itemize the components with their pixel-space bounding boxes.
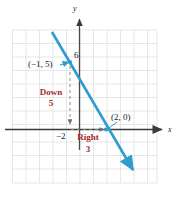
point-leader-a (60, 62, 69, 65)
graph-figure: y x 6 −2 (−1, 5) (2, 0) Down 5 Right 3 (0, 0, 178, 199)
coordinate-plane (0, 0, 178, 199)
annotation-down-value: 5 (34, 99, 68, 108)
annotation-right-value: 3 (70, 145, 106, 154)
point-leader-b (109, 122, 117, 128)
point-marker-b (104, 127, 108, 131)
x-tick-label-neg2: −2 (56, 132, 66, 141)
annotation-right-label: Right (70, 133, 106, 142)
point-label-2-0: (2, 0) (111, 113, 131, 122)
y-axis-label: y (73, 5, 77, 13)
y-tick-label-6: 6 (74, 51, 79, 60)
annotation-down-label: Down (34, 88, 68, 97)
x-axis-label: x (168, 126, 172, 134)
point-label-neg1-5: (−1, 5) (28, 60, 53, 69)
